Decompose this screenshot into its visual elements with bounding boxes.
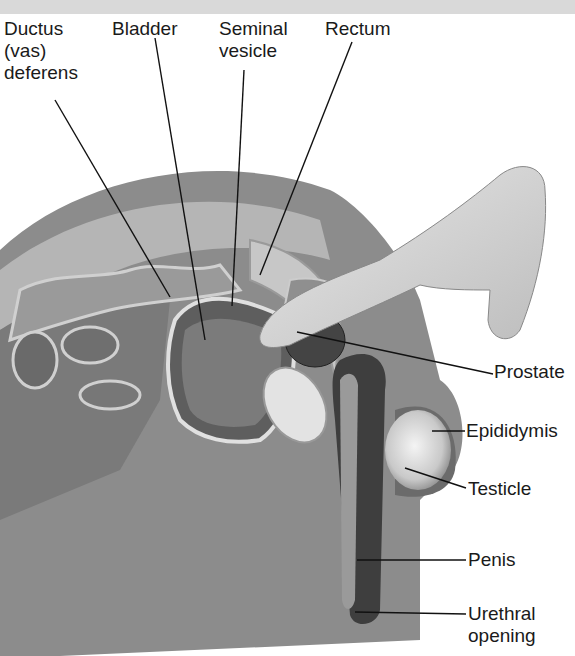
label-bladder: Bladder (112, 18, 178, 40)
label-testicle: Testicle (468, 478, 531, 500)
label-urethral-opening: Urethral opening (468, 603, 536, 647)
label-ductus-deferens: Ductus (vas) deferens (4, 18, 78, 84)
label-rectum: Rectum (325, 18, 390, 40)
label-prostate: Prostate (494, 361, 565, 383)
testicle-shape (385, 410, 451, 490)
label-epididymis: Epididymis (466, 420, 558, 442)
label-seminal-vesicle: Seminal vesicle (219, 18, 288, 62)
label-penis: Penis (468, 549, 516, 571)
